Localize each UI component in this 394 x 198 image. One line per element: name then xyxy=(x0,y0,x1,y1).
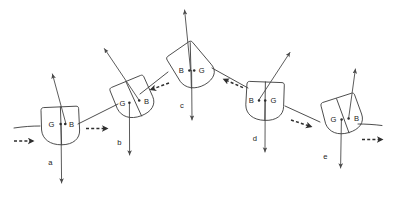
hull-section-d: B G d xyxy=(246,52,290,152)
hull-a-right-point-label: B xyxy=(69,120,74,129)
hull-section-b: G B b xyxy=(104,49,153,155)
hull-c-segment-label: c xyxy=(180,101,184,110)
hull-section-c: B G c xyxy=(167,10,215,120)
waterline-right-exit xyxy=(358,124,382,126)
hull-c-buoyancy-dot xyxy=(188,69,191,72)
hull-d-buoyancy-dot xyxy=(258,99,261,102)
hull-d-left-point-label: B xyxy=(249,96,254,105)
hull-e-buoyancy-dot xyxy=(347,117,350,120)
hull-section-a: G B a xyxy=(41,74,80,183)
wave-direction-arrow-3 xyxy=(151,83,169,90)
wave-direction-arrows xyxy=(14,79,382,141)
hull-c-buoyancy-arrow xyxy=(185,10,191,70)
waterline-left-entry xyxy=(14,126,40,128)
hull-e-weight-arrow xyxy=(341,119,342,168)
waterline-segment-c-to-d xyxy=(212,68,248,88)
hull-c-left-point-label: B xyxy=(179,66,184,75)
hull-b-buoyancy-arrow xyxy=(104,49,139,101)
hull-e-right-point-label: B xyxy=(354,114,359,123)
hull-d-right-point-label: G xyxy=(270,96,276,105)
hull-d-buoyancy-arrow xyxy=(259,52,290,100)
hull-e-centerline xyxy=(337,99,349,133)
hull-a-buoyancy-arrow xyxy=(52,74,66,124)
waterline-segment-d-to-e xyxy=(285,106,320,122)
hull-section-e: G B e xyxy=(321,69,363,168)
diagram-canvas: G B a G B b B G c xyxy=(0,0,394,198)
hull-b-left-point-label: G xyxy=(119,99,125,108)
hull-e-gravity-dot xyxy=(340,118,343,121)
waterline-segment-b-to-c xyxy=(140,72,168,94)
hull-c-gravity-dot xyxy=(193,69,196,72)
hull-a-left-point-label: G xyxy=(48,120,54,129)
ship-stability-diagram: G B a G B b B G c xyxy=(0,0,394,198)
hull-d-segment-label: d xyxy=(253,134,257,143)
hull-e-left-point-label: G xyxy=(330,115,336,124)
wave-direction-arrow-5 xyxy=(291,120,311,127)
hull-b-buoyancy-dot xyxy=(138,99,141,102)
hull-b-right-point-label: B xyxy=(144,97,149,106)
hull-e-segment-label: e xyxy=(323,152,327,161)
hull-a-buoyancy-dot xyxy=(64,123,67,126)
hull-d-gravity-dot xyxy=(264,99,267,102)
hull-b-centerline xyxy=(126,82,142,116)
hull-c-right-point-label: G xyxy=(199,66,205,75)
hull-a-segment-label: a xyxy=(48,158,53,167)
hull-b-gravity-dot xyxy=(128,102,131,105)
waterline-segment-a-to-b xyxy=(78,104,118,124)
hull-a-gravity-dot xyxy=(59,123,62,126)
hull-a-weight-arrow xyxy=(61,124,62,183)
hull-b-segment-label: b xyxy=(117,138,121,147)
